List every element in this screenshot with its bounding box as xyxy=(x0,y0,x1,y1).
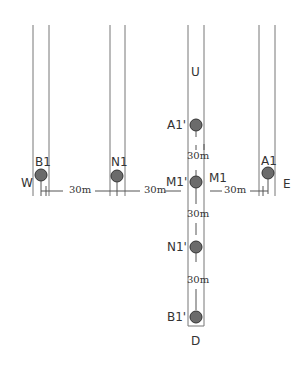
label-m1-prime: M1' xyxy=(166,175,187,189)
label-n1-prime: N1' xyxy=(167,240,187,254)
h-dim-3: 30m xyxy=(224,184,246,195)
h-dim-1: 30m xyxy=(69,184,91,195)
label-down: D xyxy=(191,334,200,348)
v-dim-3: 30m xyxy=(187,274,209,285)
v-dim-1: 30m xyxy=(187,150,209,161)
v-dim-2: 30m xyxy=(187,208,209,219)
labels-layer: W E U D B1 N1 M1 A1 A1' M1' N1' B1' 30m … xyxy=(0,0,307,367)
label-west: W xyxy=(21,176,33,190)
label-up: U xyxy=(191,65,200,79)
h-dim-2: 30m xyxy=(144,184,166,195)
label-b1: B1 xyxy=(35,155,51,169)
label-b1-prime: B1' xyxy=(167,310,186,324)
label-m1: M1 xyxy=(209,171,227,185)
label-a1-prime: A1' xyxy=(167,118,186,132)
label-n1: N1 xyxy=(111,155,128,169)
label-east: E xyxy=(283,177,291,191)
label-a1: A1 xyxy=(261,154,277,168)
